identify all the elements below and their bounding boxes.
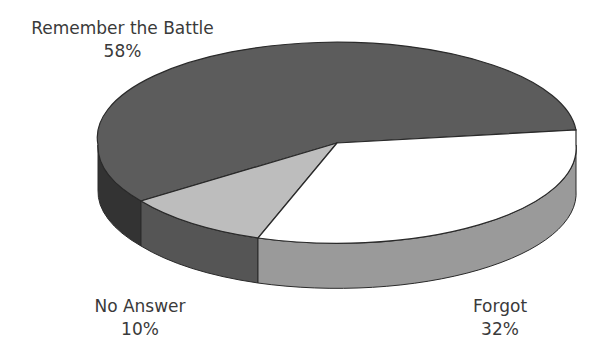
label-no-answer: No Answer 10% xyxy=(80,295,200,341)
pie-top xyxy=(97,42,576,243)
label-name: Forgot xyxy=(455,295,545,318)
label-name: Remember the Battle xyxy=(20,17,225,40)
label-pct: 10% xyxy=(80,318,200,341)
label-name: No Answer xyxy=(80,295,200,318)
label-pct: 32% xyxy=(455,318,545,341)
label-remember-the-battle: Remember the Battle 58% xyxy=(20,17,225,63)
label-pct: 58% xyxy=(20,40,225,63)
label-forgot: Forgot 32% xyxy=(455,295,545,341)
